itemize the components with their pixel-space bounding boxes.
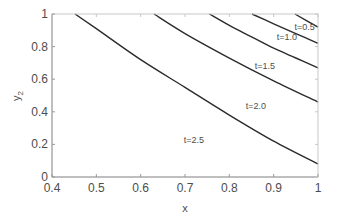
x-tick-label: 0.7 — [177, 181, 194, 195]
y-axis-label: y2 — [10, 90, 25, 101]
x-tick-label: 0.9 — [265, 181, 282, 195]
curve-label: t=1.0 — [277, 32, 297, 42]
x-tick-label: 0.8 — [221, 181, 238, 195]
y-tick-label: 0.4 — [31, 105, 48, 119]
x-axis-label: x — [182, 202, 188, 214]
curve-label: t=1.5 — [255, 61, 275, 71]
x-tick-label: 1 — [315, 181, 322, 195]
curve-label: t=0.5 — [295, 22, 315, 32]
y-tick-label: 0.6 — [31, 72, 48, 86]
y-tick-label: 0.8 — [31, 40, 48, 54]
curve-label: t=2.5 — [184, 135, 204, 145]
x-tick-label: 0.5 — [88, 181, 105, 195]
line-chart: t=0.5t=1.0t=1.5t=2.0t=2.5 0.40.50.60.70.… — [0, 0, 338, 220]
curve-label: t=2.0 — [246, 101, 266, 111]
y-tick-label: 0 — [41, 170, 48, 184]
x-tick-label: 0.6 — [132, 181, 149, 195]
y-axis-label-subscript: 2 — [16, 90, 25, 95]
y-tick-label: 0.2 — [31, 137, 48, 151]
y-tick-label: 1 — [41, 7, 48, 21]
